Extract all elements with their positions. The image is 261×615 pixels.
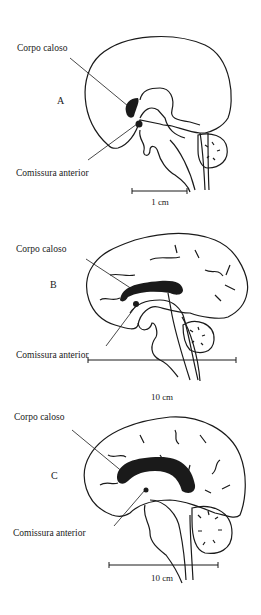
label-comissura-anterior-c: Comissura anterior (13, 529, 86, 539)
label-corpo-caloso-a: Corpo caloso (17, 44, 67, 54)
panel-letter-c: C (51, 471, 58, 481)
panel-letter-b: B (50, 280, 57, 290)
label-comissura-anterior-a: Comissura anterior (16, 169, 89, 179)
brain-c-drawing (0, 405, 261, 615)
panel-c: Corpo caloso C Comissura anterior 10 cm (0, 405, 261, 615)
label-corpo-caloso-c: Corpo caloso (14, 413, 64, 423)
panel-letter-a: A (57, 96, 64, 106)
label-comissura-anterior-b: Comissura anterior (16, 351, 89, 361)
panel-a: Corpo caloso A Comissura anterior 1 cm (0, 0, 261, 205)
scale-label-b: 10 cm (140, 393, 184, 402)
brain-b-drawing (0, 205, 261, 405)
scale-label-c: 10 cm (140, 574, 184, 583)
label-corpo-caloso-b: Corpo caloso (16, 245, 66, 255)
panel-b: Corpo caloso B Comissura anterior 10 cm (0, 205, 261, 405)
